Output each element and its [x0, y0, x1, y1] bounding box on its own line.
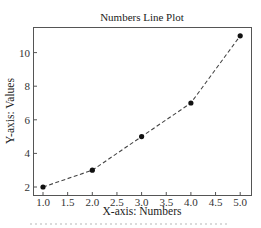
series-markers — [40, 33, 242, 189]
x-axis-label: X-axis: Numbers — [103, 205, 182, 217]
data-point-marker — [139, 134, 144, 139]
x-tick-label: 1.0 — [36, 196, 50, 208]
x-tick-label: 2.0 — [85, 196, 99, 208]
y-tick-label: 4 — [25, 147, 31, 159]
x-tick-label: 4.5 — [209, 196, 223, 208]
data-point-marker — [238, 33, 243, 38]
x-tick-label: 5.0 — [233, 196, 247, 208]
data-point-marker — [40, 184, 45, 189]
x-tick-label: 1.5 — [61, 196, 75, 208]
y-axis-label: Y-axis: Values — [4, 78, 16, 144]
data-point-marker — [188, 100, 193, 105]
chart-title: Numbers Line Plot — [100, 11, 184, 23]
y-axis-ticks: 246810 — [19, 47, 37, 193]
chart-svg: Numbers Line Plot 1.01.52.02.53.03.54.04… — [0, 0, 261, 228]
plot-frame — [34, 28, 252, 196]
x-tick-label: 4.0 — [184, 196, 198, 208]
data-point-marker — [90, 168, 95, 173]
series-line — [43, 36, 240, 187]
y-tick-label: 2 — [25, 181, 31, 193]
y-tick-label: 10 — [19, 47, 31, 59]
y-tick-label: 8 — [25, 80, 31, 92]
y-tick-label: 6 — [25, 114, 31, 126]
